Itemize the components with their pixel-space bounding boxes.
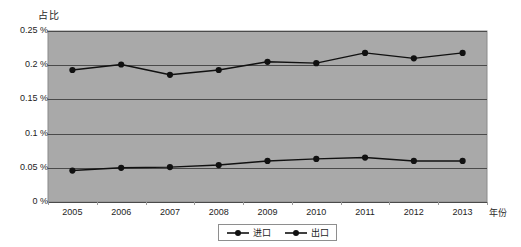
x-tick-label: 2010 — [306, 207, 326, 217]
legend-label: 进口 — [253, 226, 271, 239]
y-tick-label: 0.25 % — [1, 25, 48, 35]
x-tick-label: 2006 — [111, 207, 131, 217]
x-tick-label: 2012 — [404, 207, 424, 217]
data-point — [216, 162, 222, 168]
legend-marker-icon — [284, 228, 308, 238]
legend-marker-icon — [226, 228, 250, 238]
data-point — [264, 59, 270, 65]
legend-entry-export[interactable]: 出口 — [284, 226, 329, 239]
data-point — [118, 61, 124, 67]
data-point — [118, 165, 124, 171]
x-axis-tick-labels: 200520062007200820092010201120122013 — [0, 205, 521, 221]
data-point — [69, 67, 75, 73]
x-axis-title: 年份 — [489, 206, 507, 219]
x-tick-label: 2013 — [453, 207, 473, 217]
data-point — [167, 164, 173, 170]
data-point — [460, 50, 466, 56]
data-point — [460, 158, 466, 164]
data-point — [411, 158, 417, 164]
data-point — [264, 158, 270, 164]
data-point — [69, 167, 75, 173]
x-tick-label: 2007 — [160, 207, 180, 217]
data-point — [167, 72, 173, 78]
y-tick-label: 0.15 % — [1, 93, 48, 103]
legend-entry-import[interactable]: 进口 — [226, 226, 271, 239]
chart-container: 占比 0.25 %0.2 %0.15 %0.1 %0.05 %0 % 20052… — [0, 0, 521, 247]
data-point — [411, 55, 417, 61]
plot-background — [48, 31, 487, 202]
data-point — [362, 154, 368, 160]
data-point — [362, 50, 368, 56]
y-tick-label: 0.05 % — [1, 162, 48, 172]
y-tick-label: 0.2 % — [1, 59, 48, 69]
x-tick-label: 2009 — [257, 207, 277, 217]
x-tick-label: 2008 — [209, 207, 229, 217]
data-point — [313, 156, 319, 162]
chart-legend: 进口出口 — [218, 224, 337, 241]
data-point — [313, 60, 319, 66]
x-tick-label: 2005 — [62, 207, 82, 217]
data-point — [216, 67, 222, 73]
x-tick-label: 2011 — [355, 207, 374, 217]
y-tick-label: 0.1 % — [1, 128, 48, 138]
legend-label: 出口 — [311, 226, 329, 239]
